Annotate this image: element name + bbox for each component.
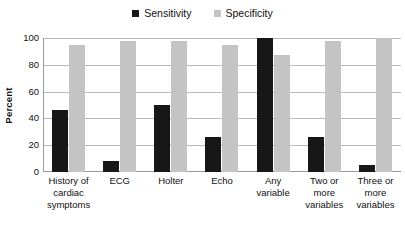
bar-sensitivity [257, 38, 273, 172]
bar-specificity [69, 45, 85, 172]
bar-sensitivity [205, 137, 221, 172]
y-axis-tick-100: 100 [23, 33, 39, 43]
bar-specificity [274, 55, 290, 172]
x-axis-tick-label: Three ormorevariables [350, 175, 401, 230]
bar-group [299, 38, 350, 172]
x-axis-tick-label: Two ormorevariables [299, 175, 350, 230]
x-axis-tick-label: ECG [94, 175, 145, 230]
bar-chart: Sensitivity Specificity Percent 02040608… [0, 0, 405, 232]
x-axis-tick-label: Anyvariable [248, 175, 299, 230]
legend-swatch-sensitivity [132, 10, 139, 17]
bar-sensitivity [103, 161, 119, 172]
bar-groups [43, 38, 401, 172]
x-axis-tick-label: History ofcardiacsymptoms [43, 175, 94, 230]
legend-swatch-specificity [214, 10, 221, 17]
y-axis-title: Percent [0, 38, 16, 172]
bar-sensitivity [359, 165, 375, 172]
x-axis-tick-label: Holter [145, 175, 196, 230]
bar-specificity [222, 45, 238, 172]
y-axis-tick-80: 80 [28, 60, 39, 70]
bar-specificity [120, 41, 136, 172]
bar-group [350, 38, 401, 172]
y-axis-tick-40: 40 [28, 113, 39, 123]
bar-specificity [171, 41, 187, 172]
bar-group [43, 38, 94, 172]
chart-legend: Sensitivity Specificity [0, 5, 405, 21]
y-axis-tick-0: 0 [34, 167, 39, 177]
x-axis-tick-label: Echo [196, 175, 247, 230]
y-axis-tick-labels: 020406080100 [16, 38, 42, 172]
y-axis-title-text: Percent [3, 87, 14, 123]
y-axis-tick-20: 20 [28, 140, 39, 150]
bar-specificity [325, 41, 341, 172]
legend-entry-specificity: Specificity [214, 8, 273, 19]
bar-sensitivity [52, 110, 68, 172]
bar-group [94, 38, 145, 172]
plot-area [43, 38, 401, 172]
bar-group [196, 38, 247, 172]
bar-group [248, 38, 299, 172]
legend-label-sensitivity: Sensitivity [144, 8, 191, 19]
legend-label-specificity: Specificity [226, 8, 273, 19]
bar-group [145, 38, 196, 172]
bar-specificity [376, 38, 392, 172]
y-axis-tick-60: 60 [28, 87, 39, 97]
bar-sensitivity [154, 105, 170, 172]
x-axis-tick-labels: History ofcardiacsymptomsECGHolterEchoAn… [43, 175, 401, 230]
bar-sensitivity [308, 137, 324, 172]
legend-entry-sensitivity: Sensitivity [132, 8, 191, 19]
